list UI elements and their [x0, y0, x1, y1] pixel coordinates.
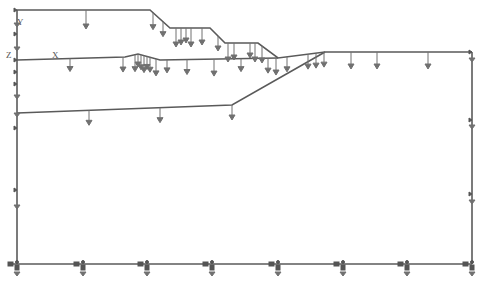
support-arrow-icon [80, 272, 86, 276]
layer-lower-surface [17, 52, 325, 113]
load-arrow-top-icon-head [160, 32, 166, 37]
load-arrow-low-icon-head [229, 115, 235, 120]
support-arrow-icon [144, 272, 150, 276]
load-arrow-mid-icon-head [321, 62, 327, 67]
load-arrow-mid-icon-head [284, 67, 290, 72]
vertical-support-icon [81, 265, 85, 270]
load-arrow-icon [469, 58, 475, 62]
horizontal-support-icon [398, 262, 403, 266]
pin-support-icon [211, 261, 214, 264]
load-arrow-icon [14, 95, 20, 99]
load-arrow-top-icon-head [83, 24, 89, 29]
load-arrow-icon [14, 47, 20, 51]
load-arrow-mid-icon-head [425, 64, 431, 69]
pin-support-icon [342, 261, 345, 264]
load-arrow-icon [14, 205, 20, 209]
load-arrow-top-icon-head [199, 40, 205, 45]
load-arrow-mid-icon-head [184, 70, 190, 75]
support-arrow-icon [275, 272, 281, 276]
load-arrow-mid-icon-head [374, 64, 380, 69]
load-arrow-mid-icon-head [238, 67, 244, 72]
load-arrow-icon [14, 113, 20, 117]
horizontal-support-icon [269, 262, 274, 266]
pin-support-icon [82, 261, 85, 264]
y-axis-label: Y [17, 17, 24, 27]
load-arrow-mid-icon-head [147, 67, 153, 72]
load-arrow-low-icon-head [157, 118, 163, 123]
pin-support-icon [146, 261, 149, 264]
pin-support-icon [277, 261, 280, 264]
horizontal-support-icon [334, 262, 339, 266]
load-arrow-mid-icon-head [67, 67, 73, 72]
load-arrow-low-icon-head [86, 120, 92, 125]
support-arrow-icon [209, 272, 215, 276]
fe-model-diagram: Y Z X [0, 0, 486, 295]
load-arrow-mid-icon-head [348, 64, 354, 69]
load-arrow-mid-icon-head [153, 71, 159, 76]
vertical-support-icon [145, 265, 149, 270]
load-arrow-top-icon-head [188, 42, 194, 47]
horizontal-support-icon [74, 262, 79, 266]
load-arrow-mid-icon-head [273, 70, 279, 75]
support-arrow-icon [340, 272, 346, 276]
load-arrow-mid-icon-head [164, 68, 170, 73]
pin-support-icon [471, 261, 474, 264]
load-arrow-top-icon-head [252, 57, 258, 62]
load-arrow-top-icon-head [150, 25, 156, 30]
pin-support-icon [16, 261, 19, 264]
load-arrow-mid-icon-head [305, 64, 311, 69]
horizontal-support-icon [8, 262, 13, 266]
load-arrow-mid-icon-head [132, 67, 138, 72]
load-arrow-icon [469, 200, 475, 204]
vertical-support-icon [276, 265, 280, 270]
vertical-support-icon [470, 265, 474, 270]
horizontal-support-icon [463, 262, 468, 266]
layer-top-surface [17, 10, 472, 58]
vertical-support-icon [405, 265, 409, 270]
vertical-support-icon [15, 265, 19, 270]
support-arrow-icon [14, 272, 20, 276]
x-axis-label: X [52, 50, 59, 60]
horizontal-support-icon [203, 262, 208, 266]
load-arrow-mid-icon-head [120, 67, 126, 72]
load-arrow-top-icon-head [173, 42, 179, 47]
load-arrow-top-icon-head [259, 58, 265, 63]
z-axis-label: Z [6, 50, 12, 60]
load-arrow-icon [469, 125, 475, 129]
load-arrow-top-icon-head [215, 46, 221, 51]
vertical-support-icon [341, 265, 345, 270]
load-arrow-mid-icon-head [211, 71, 217, 76]
support-arrow-icon [469, 272, 475, 276]
support-arrow-icon [404, 272, 410, 276]
load-arrow-mid-icon-head [265, 68, 271, 73]
vertical-support-icon [210, 265, 214, 270]
horizontal-support-icon [138, 262, 143, 266]
pin-support-icon [406, 261, 409, 264]
load-arrow-mid-icon-head [313, 63, 319, 68]
model-drawing [0, 0, 486, 295]
